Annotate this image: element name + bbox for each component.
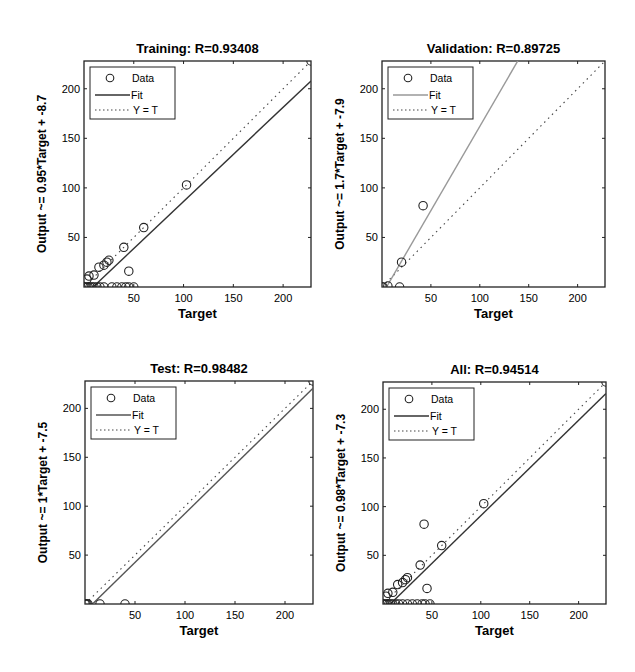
y-tick-label: 200	[361, 403, 379, 415]
legend: DataFitY = T	[389, 388, 474, 440]
x-tick-label: 200	[276, 609, 294, 621]
y-tick-label: 50	[366, 231, 378, 243]
x-tick-label: 150	[521, 609, 539, 621]
regression-figure: 5010015020050100150200DataFitY = TTraini…	[0, 0, 635, 672]
x-tick-label: 50	[129, 609, 141, 621]
x-tick-label: 150	[520, 292, 538, 304]
y-tick-label: 200	[63, 402, 81, 414]
y-tick-label: 150	[360, 132, 378, 144]
legend: DataFitY = T	[91, 387, 176, 439]
x-tick-label: 50	[128, 292, 140, 304]
x-tick-label: 200	[274, 292, 292, 304]
y-tick-label: 150	[62, 132, 80, 144]
y-tick-label: 100	[361, 501, 379, 513]
legend-fit-label: Fit	[131, 89, 143, 101]
y-tick-label: 200	[360, 83, 378, 95]
x-axis-label: Target	[180, 623, 219, 638]
x-axis-label: Target	[474, 306, 513, 321]
legend-fit-label: Fit	[132, 409, 144, 421]
legend-data-label: Data	[132, 72, 154, 84]
legend-data-label: Data	[133, 392, 155, 404]
x-tick-label: 150	[224, 292, 242, 304]
legend-identity-label: Y = T	[134, 424, 160, 436]
y-tick-label: 50	[68, 231, 80, 243]
x-tick-label: 200	[569, 609, 587, 621]
x-tick-label: 50	[425, 292, 437, 304]
panel-validation: 5010015020050100150200DataFitY = TValida…	[333, 0, 605, 321]
legend-identity-label: Y = T	[133, 104, 159, 116]
y-tick-label: 100	[360, 182, 378, 194]
chart-title: Test: R=0.98482	[150, 361, 248, 376]
legend-fit-label: Fit	[429, 89, 441, 101]
legend-identity-label: Y = T	[431, 104, 457, 116]
y-tick-label: 50	[69, 549, 81, 561]
panel-training: 5010015020050100150200DataFitY = TTraini…	[35, 41, 315, 321]
x-tick-label: 50	[426, 609, 438, 621]
legend-identity-label: Y = T	[432, 425, 458, 437]
x-tick-label: 100	[471, 292, 489, 304]
legend: DataFitY = T	[90, 67, 175, 119]
legend-data-label: Data	[431, 393, 453, 405]
x-axis-label: Target	[475, 623, 514, 638]
y-axis-label: Output ~= 1*Target + -7.5	[36, 421, 50, 563]
y-axis-label: Output ~= 1.7*Target + -7.9	[333, 98, 347, 250]
chart-title: Training: R=0.93408	[136, 41, 258, 56]
y-tick-label: 50	[367, 549, 379, 561]
chart-title: All: R=0.94514	[450, 362, 539, 377]
x-axis-label: Target	[178, 306, 217, 321]
legend-data-label: Data	[430, 72, 452, 84]
legend: DataFitY = T	[388, 67, 473, 119]
x-tick-label: 150	[226, 609, 244, 621]
legend-fit-label: Fit	[430, 410, 442, 422]
y-axis-label: Output ~= 0.98*Target + -7.3	[334, 414, 348, 572]
y-tick-label: 100	[62, 182, 80, 194]
x-tick-label: 100	[176, 609, 194, 621]
y-axis-label: Output ~= 0.95*Target + -8.7	[35, 95, 49, 253]
panel-all: 5010015020050100150200DataFitY = TAll: R…	[334, 362, 610, 638]
y-tick-label: 100	[63, 500, 81, 512]
y-tick-label: 200	[62, 83, 80, 95]
x-tick-label: 100	[472, 609, 490, 621]
x-tick-label: 200	[568, 292, 586, 304]
panel-test: 5010015020050100150200DataFitY = TTest: …	[36, 361, 317, 638]
x-tick-label: 100	[174, 292, 192, 304]
y-tick-label: 150	[361, 452, 379, 464]
y-tick-label: 150	[63, 451, 81, 463]
chart-title: Validation: R=0.89725	[427, 41, 560, 56]
